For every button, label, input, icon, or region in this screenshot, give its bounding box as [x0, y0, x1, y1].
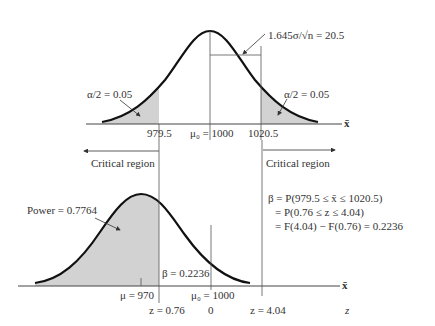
bottom-axis-label-z: z [345, 305, 349, 316]
tick-z-0: 0 [208, 305, 214, 316]
tick-z-076: z = 0.76 [149, 305, 185, 316]
tick-z-404: z = 4.04 [250, 305, 286, 316]
bottom-axis-label-x: x̄ [342, 280, 348, 291]
left-tail-label: α/2 = 0.05 [87, 89, 132, 100]
equation-line-2: = P(0.76 ≤ z ≤ 4.04) [275, 207, 364, 218]
right-critical-region-label: Critical region [266, 158, 330, 169]
tick-1020-5: 1020.5 [248, 128, 278, 139]
power-label: Power = 0.7764 [27, 205, 97, 216]
top-axis-label: x̄ [344, 118, 350, 129]
equation-line-3: = F(4.04) − F(0.76) = 0.2236 [275, 221, 403, 232]
tick-mu-970: μ = 970 [120, 290, 154, 301]
tick-mu0-top: μ₀ = 1000 [190, 128, 233, 139]
bracket-arrow [243, 34, 265, 54]
beta-label: β = 0.2236 [162, 268, 210, 279]
equation-line-1: β = P(979.5 ≤ x̄ ≤ 1020.5) [268, 193, 382, 204]
left-critical-region-label: Critical region [91, 158, 155, 169]
tick-979-5: 979.5 [147, 128, 172, 139]
top-distribution [86, 31, 342, 140]
right-tail-label: α/2 = 0.05 [284, 89, 329, 100]
bracket-label: 1.645σ/√n = 20.5 [268, 30, 344, 41]
tick-mu0-bottom: μ₀ = 1000 [191, 290, 234, 301]
hypothesis-test-diagram [0, 0, 435, 326]
